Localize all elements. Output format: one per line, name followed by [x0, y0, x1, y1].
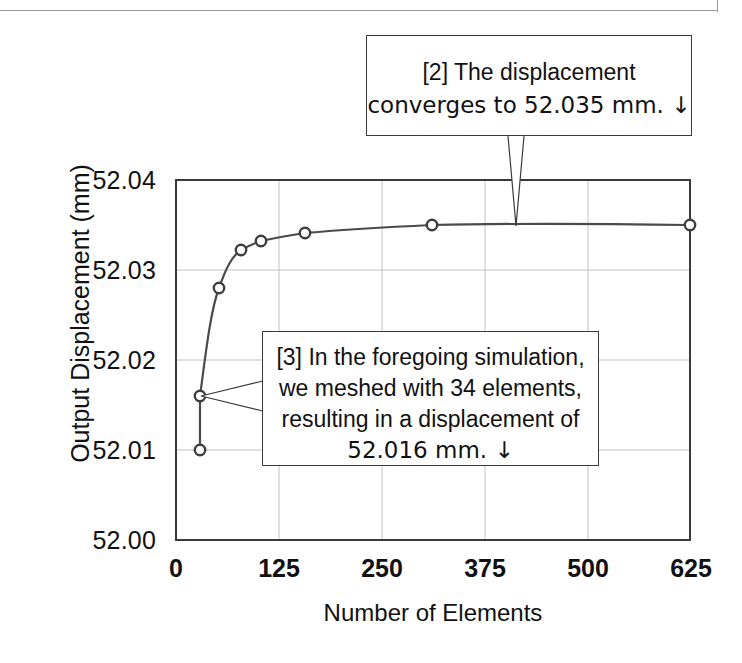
- x-tick-label-250: 250: [337, 556, 427, 581]
- x-tick-label-375: 375: [440, 556, 530, 581]
- data-point: [214, 283, 224, 293]
- x-axis-title: Number of Elements: [176, 600, 690, 626]
- data-point: [195, 445, 205, 455]
- callout-note-3-line-3: resulting in a displacement of: [263, 404, 598, 435]
- x-tick-label-0: 0: [131, 556, 221, 581]
- data-point: [685, 220, 695, 230]
- y-tick-label-52-03: 52.03: [46, 258, 156, 283]
- callout-note-2-line-2: converges to 52.035 mm. ↓: [367, 89, 691, 122]
- callout-note-3-line-4: 52.016 mm. ↓: [263, 435, 598, 466]
- convergence-chart-figure: 52.04 52.03 52.02 52.01 52.00 0 125 250 …: [0, 0, 742, 663]
- x-tick-label-625: 625: [646, 556, 736, 581]
- data-point: [236, 245, 246, 255]
- data-point: [300, 228, 310, 238]
- y-tick-label-52-02: 52.02: [46, 348, 156, 373]
- callout-note-2-line-1: [2] The displacement: [367, 56, 691, 89]
- data-point: [427, 220, 437, 230]
- callout-note-2: [2] The displacement converges to 52.035…: [366, 35, 692, 136]
- data-point: [256, 236, 266, 246]
- y-tick-label-52-04: 52.04: [46, 168, 156, 193]
- y-axis-title: Output Displacement (mm): [67, 114, 94, 514]
- y-tick-label-52-00: 52.00: [46, 528, 156, 553]
- callout-note-3-line-2: we meshed with 34 elements,: [263, 373, 598, 404]
- x-tick-label-500: 500: [543, 556, 633, 581]
- y-tick-label-52-01: 52.01: [46, 438, 156, 463]
- x-tick-label-125: 125: [234, 556, 324, 581]
- callout-3-leader: [201, 381, 263, 411]
- callout-note-3: [3] In the foregoing simulation, we mesh…: [262, 331, 599, 466]
- callout-note-3-line-1: [3] In the foregoing simulation,: [263, 342, 598, 373]
